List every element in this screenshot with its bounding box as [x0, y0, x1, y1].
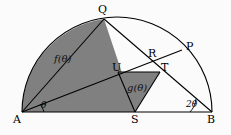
- region-label-g-theta: g(θ): [127, 83, 147, 93]
- region-label-f-theta: f(θ): [54, 54, 72, 64]
- point-label-P: P: [186, 41, 193, 52]
- point-label-S: S: [131, 114, 139, 125]
- geometry-figure: A B S Q P R T U f(θ) g(θ) θ 2θ: [0, 0, 231, 135]
- point-label-R: R: [148, 48, 156, 59]
- point-label-B: B: [207, 114, 215, 125]
- point-label-A: A: [13, 114, 21, 125]
- point-label-Q: Q: [98, 4, 107, 15]
- angle-label-theta-at-A: θ: [41, 101, 46, 110]
- point-label-T: T: [161, 62, 168, 73]
- point-label-U: U: [112, 62, 121, 73]
- angle-label-two-theta-at-B: 2θ: [186, 100, 197, 109]
